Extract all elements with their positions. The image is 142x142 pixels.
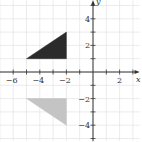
coordinate-plane: −6−4−2242−2−4 x y [0, 0, 142, 142]
x-tick-label: −2 [59, 76, 71, 85]
y-tick-label: −2 [78, 95, 90, 104]
axes [0, 0, 140, 141]
x-axis-label: x [136, 75, 141, 84]
y-axis-arrow-icon [91, 0, 95, 5]
y-tick-label: −4 [78, 121, 90, 130]
x-axis-arrow-icon [135, 70, 140, 74]
x-tick-label: −4 [32, 76, 44, 85]
y-tick-label: 4 [85, 15, 90, 24]
grid-lines [0, 0, 140, 141]
x-tick-label: −6 [6, 76, 18, 85]
y-axis-label: y [95, 0, 101, 6]
x-tick-label: 2 [117, 76, 122, 85]
y-tick-label: 2 [85, 41, 90, 50]
